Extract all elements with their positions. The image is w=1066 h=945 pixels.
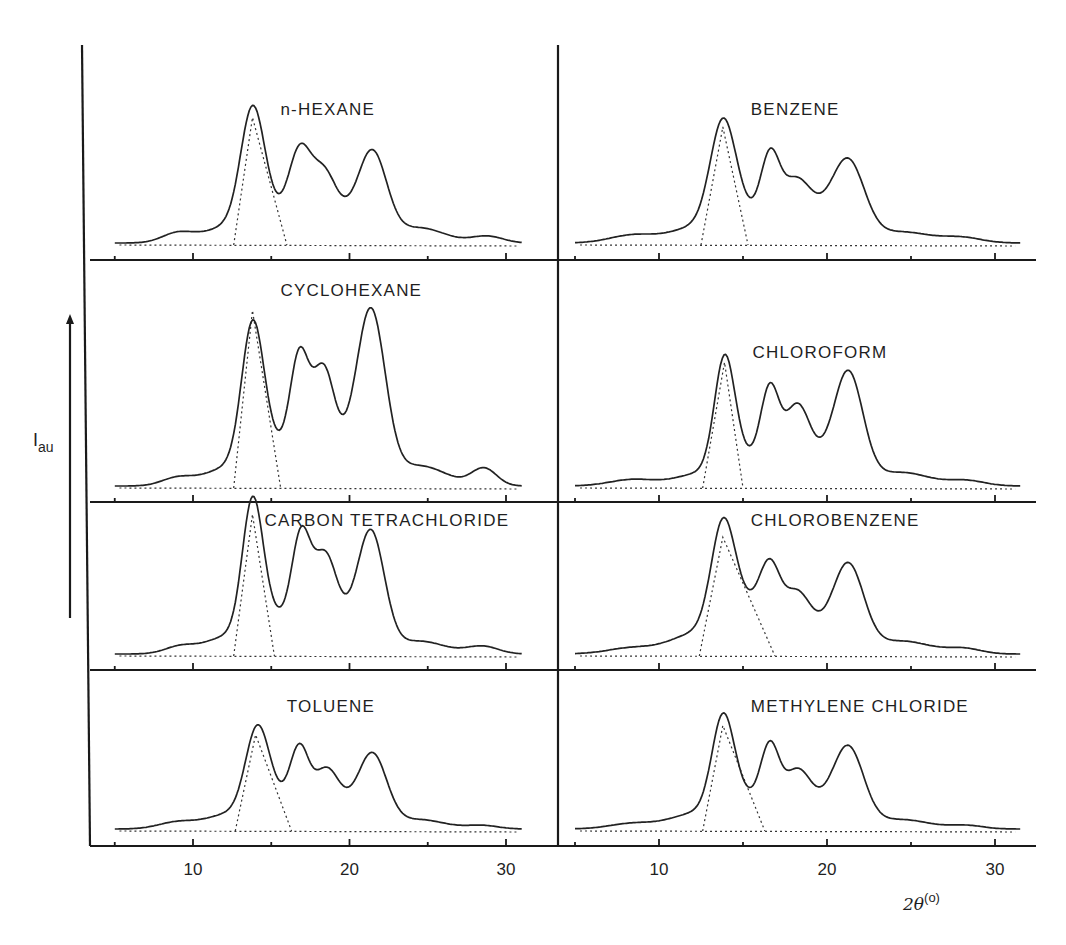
deconvolution-triangle-toluene	[235, 735, 291, 831]
background-line-n-hexane	[119, 245, 517, 246]
deconvolution-triangle-n-hexane	[234, 117, 287, 245]
curve-chlorobenzene	[575, 517, 1020, 654]
deconvolution-triangle-cyclohexane	[234, 310, 281, 488]
left-frame-line	[82, 45, 90, 846]
curve-chloroform	[575, 354, 1020, 486]
panel-titles: n-HEXANEBENZENECYCLOHEXANECHLOROFORMCARB…	[264, 100, 968, 716]
deconvolution-triangle-benzene	[701, 127, 748, 245]
background-line-methylene-chloride	[580, 831, 1015, 832]
xrd-figure: 102030102030 n-HEXANEBENZENECYCLOHEXANEC…	[0, 0, 1066, 945]
panel-title-chloroform: CHLOROFORM	[753, 343, 888, 362]
x-tick-labels: 102030102030	[184, 860, 1005, 879]
deconvolution-triangle-carbon-tetrachloride	[234, 514, 275, 656]
x-tick-label-left-10: 10	[184, 860, 203, 879]
background-line-toluene	[119, 831, 517, 832]
background-line-carbon-tetrachloride	[119, 656, 517, 657]
panel-frames	[82, 45, 1036, 846]
panel-title-n-hexane: n-HEXANE	[280, 100, 375, 119]
background-line-chloroform	[580, 488, 1015, 489]
diffraction-curves	[115, 105, 1020, 829]
panel-title-chlorobenzene: CHLOROBENZENE	[751, 511, 920, 530]
x-tick-label-right-30: 30	[986, 860, 1005, 879]
deconvolution-triangles	[234, 117, 775, 831]
background-baselines	[119, 245, 1015, 832]
background-line-benzene	[580, 245, 1015, 246]
x-tick-label-left-20: 20	[340, 860, 359, 879]
panel-title-benzene: BENZENE	[751, 100, 840, 119]
panel-title-cyclohexane: CYCLOHEXANE	[280, 281, 422, 300]
x-tick-label-right-20: 20	[818, 860, 837, 879]
curve-toluene	[115, 725, 522, 829]
panel-title-methylene-chloride: METHYLENE CHLORIDE	[751, 697, 969, 716]
curve-n-hexane	[115, 105, 522, 243]
x-axis-label: 2θ(o)	[902, 890, 940, 914]
panel-title-carbon-tetrachloride: CARBON TETRACHLORIDE	[264, 511, 509, 530]
curve-benzene	[575, 118, 1020, 243]
y-axis-label: Iau	[33, 430, 54, 455]
background-line-cyclohexane	[119, 488, 517, 489]
deconvolution-triangle-chloroform	[703, 362, 743, 488]
curve-cyclohexane	[115, 308, 522, 486]
background-line-chlorobenzene	[580, 656, 1015, 657]
x-tick-label-left-30: 30	[497, 860, 516, 879]
panel-title-toluene: TOLUENE	[287, 697, 375, 716]
y-axis-arrow	[66, 314, 74, 618]
curve-methylene-chloride	[575, 713, 1020, 829]
x-tick-label-right-10: 10	[650, 860, 669, 879]
